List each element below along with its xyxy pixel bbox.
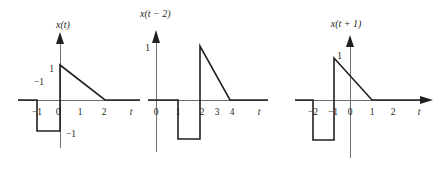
x-tick-label-0: 0 xyxy=(56,107,61,117)
x-tick-label-0: 0 xyxy=(348,107,353,117)
x-tick-label-2: 2 xyxy=(391,107,396,117)
signal-trace-xt xyxy=(18,65,140,131)
y-axis-arrow-icon xyxy=(346,35,354,47)
side-value-label-negative-one: −1 xyxy=(34,77,44,87)
x-tick-label-neg1: −1 xyxy=(328,107,338,117)
y-value-label-one: 1 xyxy=(49,64,54,74)
x-tick-label-neg2: −2 xyxy=(308,107,318,117)
x-axis-variable-label: t xyxy=(130,107,133,117)
y-axis-arrow-icon xyxy=(56,32,64,44)
x-tick-label-1: 1 xyxy=(176,107,181,117)
y-axis-arrow-icon xyxy=(152,30,160,43)
x-tick-label-0: 0 xyxy=(154,107,159,117)
x-tick-label-1: 1 xyxy=(78,107,83,117)
x-axis-variable-label: t xyxy=(418,107,421,117)
x-tick-label-2: 2 xyxy=(200,107,205,117)
plot-svg-xt-plus-1: x(t + 1) 1 −2 −1 0 1 2 t xyxy=(290,0,447,179)
plot-svg-xt-minus-2: x(t − 2) 1 0 1 2 3 4 t xyxy=(140,0,300,179)
x-tick-label-neg1: −1 xyxy=(32,107,42,117)
x-tick-label-1: 1 xyxy=(370,107,375,117)
x-tick-label-4: 4 xyxy=(230,107,235,117)
plot-panel-xt: x(t) 1 −1 −1 −1 0 1 2 t xyxy=(0,0,150,179)
y-value-label-one: 1 xyxy=(145,43,150,53)
y-value-label-negative-one: −1 xyxy=(66,129,76,139)
plot-title-xt-plus-1: x(t + 1) xyxy=(330,18,362,30)
x-axis-variable-label: t xyxy=(258,107,261,117)
plot-title-xt-minus-2: x(t − 2) xyxy=(140,8,171,20)
x-tick-label-3: 3 xyxy=(215,107,220,117)
plot-panel-xt-plus-1: x(t + 1) 1 −2 −1 0 1 2 t xyxy=(290,0,447,179)
plot-svg-xt: x(t) 1 −1 −1 −1 0 1 2 t xyxy=(0,0,150,179)
signal-shift-figure: x(t) 1 −1 −1 −1 0 1 2 t x(t − 2) 1 xyxy=(0,0,447,179)
signal-trace-xt-plus-1 xyxy=(295,58,424,140)
plot-title-xt: x(t) xyxy=(55,19,71,31)
signal-trace-xt-minus-2 xyxy=(148,46,268,139)
y-value-label-one: 1 xyxy=(337,51,342,61)
plot-panel-xt-minus-2: x(t − 2) 1 0 1 2 3 4 t xyxy=(140,0,300,179)
x-tick-label-2: 2 xyxy=(102,107,107,117)
